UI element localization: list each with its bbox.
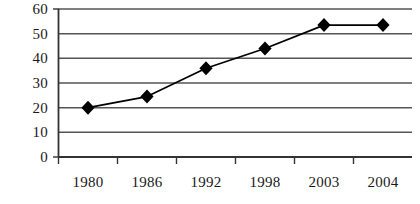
x-tick-label-1998: 1998: [235, 175, 295, 190]
x-axis-ticks: [59, 157, 354, 164]
data-point-1980: [81, 101, 94, 115]
x-tick-label-1980: 1980: [58, 175, 118, 190]
y-tick-label-60: 60: [8, 2, 48, 17]
data-point-1998: [258, 42, 271, 56]
x-tick-label-2003: 2003: [294, 175, 354, 190]
data-point-2004: [376, 18, 389, 32]
x-tick-label-1986: 1986: [117, 175, 177, 190]
y-tick-label-10: 10: [8, 125, 48, 140]
x-tick-label-2004: 2004: [353, 175, 413, 190]
data-point-1992: [199, 61, 212, 75]
y-tick-label-40: 40: [8, 51, 48, 66]
y-tick-label-50: 50: [8, 27, 48, 42]
y-tick-label-30: 30: [8, 76, 48, 91]
data-point-2003: [317, 18, 330, 32]
x-tick-label-1992: 1992: [176, 175, 236, 190]
data-point-1986: [140, 90, 153, 104]
data-line-series-0: [88, 25, 383, 108]
y-tick-label-20: 20: [8, 101, 48, 116]
gridlines: [58, 9, 412, 132]
y-tick-label-0: 0: [8, 150, 48, 165]
line-chart: 60 50 40 30 20 10 0 1980 1986 1992 1998 …: [0, 0, 420, 204]
